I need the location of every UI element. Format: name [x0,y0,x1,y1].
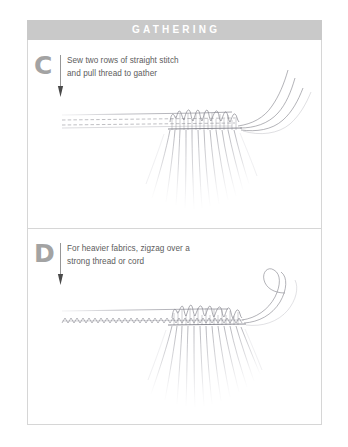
step-marker-d: D [34,241,55,266]
instruction-page: GATHERING C Sew two rows of straight sti… [0,0,348,447]
panel-divider [27,228,322,229]
instruction-d-line-1: For heavier fabrics, zigzag over a [67,243,252,256]
step-arrow-c-icon [56,55,65,97]
section-header-bar: GATHERING [27,20,322,40]
instruction-text-d: For heavier fabrics, zigzag over a stron… [67,243,252,268]
page-title: GATHERING [129,25,220,35]
instruction-c-line-2: and pull thread to gather [67,68,247,81]
step-arrow-d-icon [56,243,65,285]
step-marker-c: C [34,53,52,78]
panels-frame [27,40,322,425]
instruction-text-c: Sew two rows of straight stitch and pull… [67,55,247,80]
instruction-c-line-1: Sew two rows of straight stitch [67,55,247,68]
instruction-d-line-2: strong thread or cord [67,256,252,269]
